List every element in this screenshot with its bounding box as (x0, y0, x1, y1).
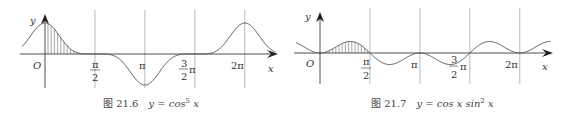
caption-formula: y = cos (147, 98, 185, 109)
caption-fig-21-7: 图 21.7y = cos x sin2 x (371, 97, 494, 109)
origin-label: O (33, 60, 41, 71)
caption-fig-number: 图 21.7 (371, 98, 406, 109)
chart-cos5 (20, 10, 278, 88)
caption-formula: y = cos x sin (415, 98, 480, 109)
y-axis-label: y (29, 15, 36, 26)
tick-label-2pi: 2π (505, 59, 518, 70)
chart-cos-sin2 (294, 8, 553, 84)
tick-label-3pi-over-2-suffix: π (189, 64, 196, 75)
tick-label-pi: π (139, 60, 146, 71)
tick-label-3pi-over-2-num: 3 (451, 54, 457, 65)
tick-label-pi-over-2-num: π (92, 59, 99, 70)
tick-label-pi: π (411, 59, 418, 70)
tick-label-pi-over-2-den: 2 (92, 72, 98, 83)
x-axis-label: x (542, 61, 548, 72)
y-axis-label: y (304, 11, 311, 22)
caption-formula-tail: x (485, 98, 494, 109)
tick-label-3pi-over-2-den: 2 (451, 69, 457, 80)
caption-fig-21-6: 图 21.6y = cos5 x (103, 97, 199, 109)
x-axis-label: x (268, 63, 274, 74)
tick-label-3pi-over-2-suffix: π (460, 61, 467, 72)
caption-fig-number: 图 21.6 (103, 98, 138, 109)
tick-label-3pi-over-2-den: 2 (181, 71, 187, 82)
origin-label: O (306, 58, 314, 69)
caption-formula-tail: x (190, 98, 199, 109)
figure-pair: y O x π 2 π 3 2 π 2π y O x π 2 π 3 2 π 2… (0, 0, 573, 118)
tick-label-2pi: 2π (231, 60, 244, 71)
tick-label-pi-over-2-den: 2 (363, 70, 369, 81)
tick-label-3pi-over-2-num: 3 (181, 58, 187, 69)
tick-label-pi-over-2-num: π (363, 56, 370, 67)
